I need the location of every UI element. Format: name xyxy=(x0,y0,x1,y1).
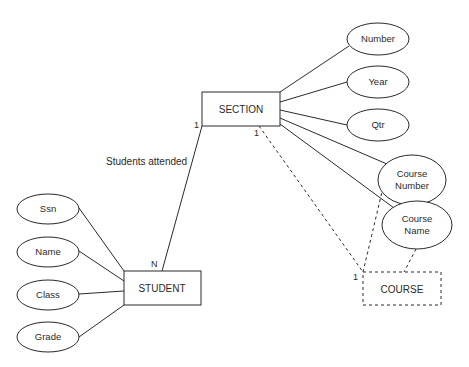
entity-student[interactable]: STUDENT xyxy=(124,271,201,305)
attribute-year[interactable]: Year xyxy=(347,66,409,98)
attribute-name-label: Name xyxy=(35,246,60,257)
attribute-year-label: Year xyxy=(368,76,387,87)
attribute-course-number[interactable]: Course Number xyxy=(378,155,446,205)
attribute-ssn[interactable]: Ssn xyxy=(17,194,79,224)
attribute-course-name-label-line1: Course xyxy=(402,213,433,224)
cardinality-student-section: N xyxy=(151,259,158,269)
attribute-qtr-label: Qtr xyxy=(371,119,384,130)
attribute-qtr[interactable]: Qtr xyxy=(347,109,409,141)
relationship-label-students-attended: Students attended xyxy=(106,156,187,167)
attribute-number[interactable]: Number xyxy=(347,23,409,55)
cardinality-section-course: 1 xyxy=(254,128,259,138)
entity-student-label: STUDENT xyxy=(138,283,185,294)
cardinality-course-section: 1 xyxy=(353,272,358,282)
cardinality-section-student: 1 xyxy=(194,120,199,130)
attribute-grade[interactable]: Grade xyxy=(17,322,79,352)
attribute-name[interactable]: Name xyxy=(17,237,79,267)
attribute-class[interactable]: Class xyxy=(17,280,79,310)
attribute-class-label: Class xyxy=(36,289,60,300)
entity-section[interactable]: SECTION xyxy=(202,92,280,126)
student-attribute-connectors xyxy=(79,208,124,337)
attribute-number-label: Number xyxy=(361,33,395,44)
attribute-ssn-label: Ssn xyxy=(40,203,56,214)
relationship-line-students-attended xyxy=(162,126,202,271)
attribute-course-name[interactable]: Course Name xyxy=(382,201,452,249)
attribute-course-number-label-line1: Course xyxy=(397,168,428,179)
entity-section-label: SECTION xyxy=(219,104,263,115)
attribute-course-name-label-line2: Name xyxy=(404,225,429,236)
attribute-grade-label: Grade xyxy=(35,331,61,342)
attribute-course-number-label-line2: Number xyxy=(395,180,429,191)
er-diagram: SECTION STUDENT COURSE Number Year Qtr C… xyxy=(0,0,469,367)
entity-course[interactable]: COURSE xyxy=(363,272,441,305)
entity-course-label: COURSE xyxy=(381,284,424,295)
